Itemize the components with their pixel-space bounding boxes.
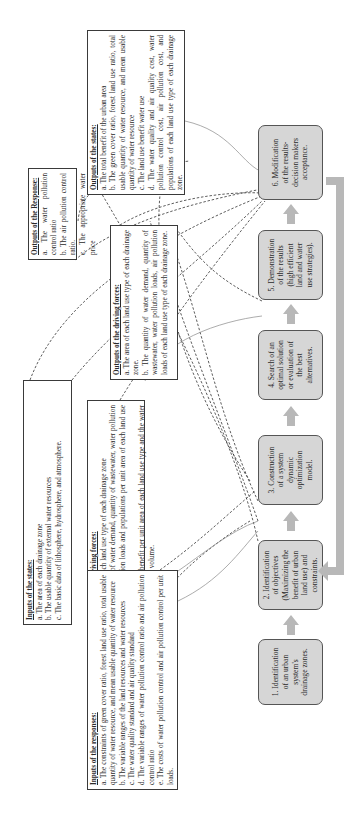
- inputs-of-responses-item-c: c. The water quality standard and air qu…: [128, 575, 138, 785]
- process-step-1: 1. Identification of an urban system's d…: [258, 639, 323, 705]
- process-step-1-line-2: of an urban: [281, 648, 291, 697]
- process-step-5-line-4: land and water: [295, 239, 305, 292]
- process-step-6-line-2: of the results-: [281, 138, 291, 187]
- process-step-3-line-4: optimization: [295, 447, 305, 494]
- outputs-of-driving-forces-box: Outputs of the driving forces: a. The ar…: [110, 225, 178, 380]
- process-step-5-line-5: use strategies).: [305, 239, 315, 292]
- outputs-of-driving-forces-title: Outputs of the driving forces:: [113, 230, 123, 375]
- process-step-1-line-3: system's: [291, 648, 301, 697]
- process-step-3-line-3: dynamic: [286, 447, 296, 494]
- outputs-of-response-title: Outputs of the Response:: [31, 173, 41, 255]
- process-step-4-line-2: optimal solution: [276, 340, 286, 390]
- process-step-3-line-2: of a system: [276, 447, 286, 494]
- inputs-of-responses-item-a: a. The constraints of green cover ratio,…: [100, 575, 119, 785]
- inputs-of-states-item-a: a. The area of each drainage zone: [36, 385, 46, 620]
- flow-arrow-2-3: [282, 509, 300, 533]
- inputs-of-states-item-b: b. The usable quantity of external water…: [45, 385, 55, 620]
- process-step-4: 4. Search of an optimal solution or eval…: [258, 330, 323, 400]
- process-step-1-line-1: 1. Identification: [271, 648, 281, 697]
- outputs-of-driving-forces-item-b: b. The quantity of water demand, quantit…: [142, 230, 171, 375]
- process-step-5-line-3: (high efficient: [286, 239, 296, 292]
- flow-arrow-4-5: [282, 302, 300, 326]
- process-step-2-line-5: land use) and: [300, 550, 310, 601]
- process-step-4-line-1: 4. Search of an: [267, 340, 277, 390]
- process-step-5-line-2: of the results: [276, 239, 286, 292]
- outputs-of-states-title: Outputs of the states:: [90, 35, 100, 190]
- outputs-of-response-box: Outputs of the Response: a. The water po…: [28, 168, 77, 260]
- diagram-canvas: Outputs of the states: a. The total bene…: [0, 0, 358, 821]
- process-step-2-line-1: 2. Identification: [262, 550, 272, 601]
- feedback-loop-arrow: [318, 175, 348, 585]
- process-step-6: 6. Modification of the results- decision…: [258, 125, 323, 200]
- flow-arrow-1-2: [282, 613, 300, 637]
- outputs-of-states-item-b: b. The green cover ratio, forest land us…: [109, 35, 138, 190]
- flow-arrow-5-6: [282, 202, 300, 226]
- process-step-4-line-4: the best: [295, 340, 305, 390]
- process-step-2-line-3: (Maximizing the: [281, 550, 291, 601]
- outputs-of-states-item-a: a. The total benefit of the urban area: [100, 35, 110, 190]
- outputs-of-states-box: Outputs of the states: a. The total bene…: [87, 30, 185, 195]
- process-step-3-line-5: model.: [305, 447, 315, 494]
- outputs-of-response-item-b: b. The air pollution control ratio.: [60, 173, 79, 255]
- inputs-of-responses-item-b: b. The variable ranges of the land resou…: [119, 575, 129, 785]
- inputs-of-responses-item-d: d. The variable ranges of water pollutio…: [138, 575, 157, 785]
- outputs-of-response-item-c: c. The appropriate water price: [79, 173, 98, 255]
- process-step-5: 5. Demonstration of the results (high ef…: [258, 230, 323, 300]
- process-step-4-line-3: or evaluation of: [286, 340, 296, 390]
- process-step-3: 3. Construction of a system dynamic opti…: [258, 435, 323, 505]
- outputs-of-states-item-d: d. The water quality and air quality cos…: [148, 35, 186, 190]
- outputs-of-states-item-c: c. The land use benefit water use: [138, 35, 148, 190]
- process-step-6-line-4: acceptance.: [300, 138, 310, 187]
- inputs-of-responses-title: Inputs of the responses:: [90, 575, 100, 785]
- inputs-of-states-box: Inputs of the states: a. The area of eac…: [23, 380, 72, 625]
- process-step-6-line-3: decision makers: [291, 138, 301, 187]
- process-step-5-line-1: 5. Demonstration: [267, 239, 277, 292]
- outputs-of-response-item-a: a. The water pollution control ratio: [41, 173, 60, 255]
- outputs-of-driving-forces-item-a: a. The area of each land use type of eac…: [123, 230, 142, 375]
- inputs-of-responses-item-e: e. The costs of water pollution control …: [157, 575, 176, 785]
- process-step-1-line-4: drainage zones.: [300, 648, 310, 697]
- inputs-of-responses-box: Inputs of the responses: a. The constrai…: [87, 570, 178, 790]
- process-step-4-line-5: alternatives.: [305, 340, 315, 390]
- flow-arrow-3-4: [282, 404, 300, 428]
- inputs-of-states-title: Inputs of the states:: [26, 385, 36, 620]
- process-step-6-line-1: 6. Modification: [271, 138, 281, 187]
- process-step-2-line-2: of objectives: [271, 550, 281, 601]
- process-step-2: 2. Identification of objectives (Maximiz…: [258, 540, 323, 610]
- process-step-3-line-1: 3. Construction: [267, 447, 277, 494]
- inputs-of-states-item-c: c. The basic data of lithosphere, hydros…: [55, 385, 65, 620]
- process-step-2-line-4: benefit of urban: [291, 550, 301, 601]
